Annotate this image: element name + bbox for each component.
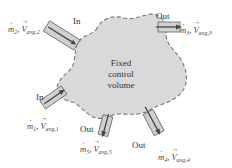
- mass-flow-index: 3: [186, 30, 189, 36]
- velocity-subscript: avg,1: [46, 126, 59, 132]
- mass-flow-index: 1: [33, 126, 36, 132]
- velocity-symbol: V: [40, 122, 45, 131]
- outlet-pipe-3: [156, 22, 182, 32]
- velocity-subscript: avg,2: [27, 29, 40, 35]
- velocity-subscript: avg,4: [177, 157, 190, 163]
- flow-label-4: m4, Vavg,4: [158, 153, 190, 163]
- outlet-3-direction: Out: [156, 12, 170, 21]
- mass-flow-symbol: m: [8, 25, 14, 34]
- control-volume-label: Fixed control volume: [96, 58, 146, 91]
- mass-flow-index: 5: [86, 149, 89, 155]
- mass-flow-symbol: m: [80, 145, 86, 154]
- outlet-4-direction: Out: [132, 141, 146, 150]
- velocity-symbol: V: [93, 145, 98, 154]
- inlet-2-direction: In: [73, 17, 81, 26]
- mass-flow-symbol: m: [158, 153, 164, 162]
- velocity-symbol: V: [21, 25, 26, 34]
- outlet-5-direction: Out: [80, 125, 94, 134]
- velocity-symbol: V: [193, 26, 198, 35]
- mass-flow-index: 4: [164, 157, 167, 163]
- velocity-subscript: avg,5: [99, 149, 112, 155]
- velocity-symbol: V: [171, 153, 176, 162]
- inlet-1-direction: In: [36, 93, 44, 102]
- center-label-line-3: volume: [96, 80, 146, 91]
- mass-flow-index: 2: [14, 29, 17, 35]
- center-label-line-2: control: [96, 69, 146, 80]
- center-label-line-1: Fixed: [96, 58, 146, 69]
- flow-label-2: m2, Vavg,2: [8, 25, 40, 35]
- flow-label-3: m3, Vavg,3: [180, 26, 212, 36]
- velocity-subscript: avg,3: [199, 30, 212, 36]
- flow-label-1: m1, Vavg,1: [27, 122, 59, 132]
- mass-flow-symbol: m: [27, 122, 33, 131]
- flow-label-5: m5, Vavg,5: [80, 145, 112, 155]
- mass-flow-symbol: m: [180, 26, 186, 35]
